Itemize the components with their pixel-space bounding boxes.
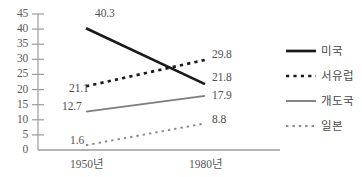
legend-item-western-europe[interactable]: 서유럽 [286, 63, 362, 88]
y-tick-label-30: 30 [6, 53, 28, 65]
legend-label-developing: 개도국 [321, 95, 354, 107]
data-label-us-1950: 40.3 [95, 7, 115, 19]
y-tick-label-45: 45 [6, 8, 28, 20]
legend-swatch-solid-gray-icon [286, 95, 316, 107]
data-label-japan-1950: 1.6 [70, 134, 84, 146]
y-tick-label-5: 5 [6, 129, 28, 141]
data-label-japan-1980: 8.8 [212, 113, 226, 125]
y-tick-label-15: 15 [6, 99, 28, 111]
chart-legend: 미국 서유럽 개도국 일본 [286, 38, 362, 138]
series-line-us [86, 28, 205, 84]
legend-swatch-dotted-thin-gray-icon [286, 120, 316, 132]
y-tick-label-25: 25 [6, 68, 28, 80]
series-line-western-europe [86, 60, 205, 86]
data-label-developing-1950: 12.7 [62, 100, 82, 112]
y-tick-label-35: 35 [6, 38, 28, 50]
y-tick-label-10: 10 [6, 114, 28, 126]
legend-label-us: 미국 [321, 45, 343, 57]
series-line-japan [86, 123, 205, 145]
legend-swatch-solid-black-icon [286, 45, 316, 57]
legend-label-western-europe: 서유럽 [321, 70, 354, 82]
legend-item-japan[interactable]: 일본 [286, 113, 362, 138]
legend-swatch-dotted-thick-black-icon [286, 70, 316, 82]
y-tick-label-20: 20 [6, 84, 28, 96]
legend-item-us[interactable]: 미국 [286, 38, 362, 63]
x-tick-label-1980: 1980년 [175, 158, 237, 170]
data-label-westerneurope-1980: 29.8 [212, 48, 232, 60]
data-label-westerneurope-1950: 21.1 [69, 82, 89, 94]
y-tick-label-0: 0 [6, 144, 28, 156]
legend-item-developing[interactable]: 개도국 [286, 88, 362, 113]
x-tick-label-1950: 1950년 [56, 158, 118, 170]
series-line-developing [86, 96, 205, 112]
data-label-us-1980: 21.8 [212, 71, 232, 83]
y-tick-label-40: 40 [6, 23, 28, 35]
data-label-developing-1980: 17.9 [212, 89, 232, 101]
legend-label-japan: 일본 [321, 120, 343, 132]
line-chart: 45 40 35 30 25 20 15 10 5 0 1950년 1980년 … [0, 0, 362, 177]
